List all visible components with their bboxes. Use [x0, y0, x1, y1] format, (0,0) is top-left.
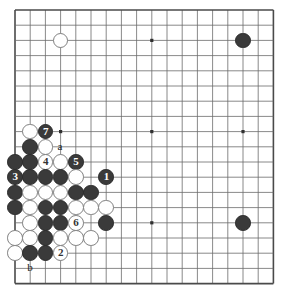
move-number: 2: [58, 247, 63, 258]
move-number: 7: [43, 126, 48, 137]
move-stone-1[interactable]: 1: [98, 169, 114, 185]
star-point: [150, 130, 153, 133]
black-stone[interactable]: [22, 169, 38, 185]
black-stone[interactable]: [22, 154, 38, 170]
white-stone[interactable]: [7, 245, 23, 261]
star-point: [241, 130, 244, 133]
black-stone[interactable]: [38, 245, 54, 261]
white-stone[interactable]: [22, 185, 38, 201]
black-stone[interactable]: [53, 215, 69, 231]
point-label-a: a: [58, 141, 63, 152]
move-number: 5: [73, 156, 78, 167]
black-stone[interactable]: [7, 200, 23, 216]
white-stone[interactable]: [68, 169, 84, 185]
move-number: 3: [12, 171, 17, 182]
white-stone[interactable]: [38, 139, 54, 155]
star-point: [150, 221, 153, 224]
move-number: 6: [73, 217, 78, 228]
white-stone[interactable]: [53, 154, 69, 170]
white-stone[interactable]: [83, 230, 99, 246]
white-stone[interactable]: [7, 230, 23, 246]
black-stone[interactable]: [235, 33, 251, 49]
black-stone[interactable]: [7, 185, 23, 201]
move-stone-6[interactable]: 6: [68, 215, 84, 231]
white-stone[interactable]: [68, 200, 84, 216]
move-stone-3[interactable]: 3: [7, 169, 23, 185]
point-label-b: b: [27, 262, 33, 273]
black-stone[interactable]: [7, 154, 23, 170]
black-stone[interactable]: [38, 215, 54, 231]
move-number: 1: [104, 171, 109, 182]
white-stone[interactable]: [22, 230, 38, 246]
star-point: [59, 130, 62, 133]
black-stone[interactable]: [38, 169, 54, 185]
white-stone[interactable]: [53, 230, 69, 246]
star-point: [150, 39, 153, 42]
move-number: 4: [43, 156, 48, 167]
black-stone[interactable]: [38, 230, 54, 246]
black-stone[interactable]: [83, 185, 99, 201]
black-stone[interactable]: [235, 215, 251, 231]
go-diagram: 7453162 ab: [0, 0, 288, 297]
move-stone-4[interactable]: 4: [38, 154, 54, 170]
black-stone[interactable]: [98, 215, 114, 231]
white-stone[interactable]: [68, 230, 84, 246]
move-stone-5[interactable]: 5: [68, 154, 84, 170]
white-stone[interactable]: [83, 200, 99, 216]
black-stone[interactable]: [22, 245, 38, 261]
black-stone[interactable]: [22, 139, 38, 155]
white-stone[interactable]: [22, 215, 38, 231]
black-stone[interactable]: [68, 185, 84, 201]
